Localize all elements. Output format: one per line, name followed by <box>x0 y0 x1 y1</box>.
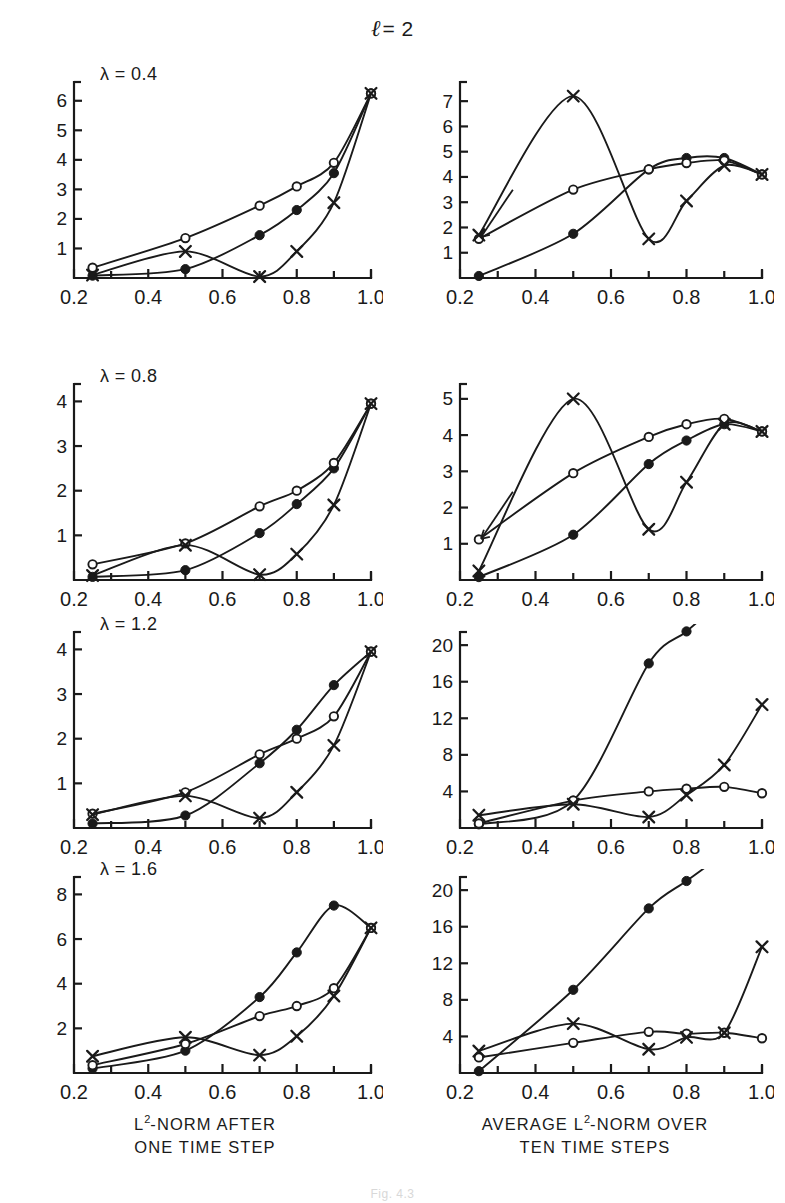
data-marker-filled-circle <box>682 627 691 636</box>
plot-area-panel-l16-one-step: 24680.20.40.60.81.0 <box>28 865 383 1115</box>
data-marker-cross <box>681 477 692 488</box>
series-line-open-circle <box>93 404 371 565</box>
data-marker-filled-circle <box>644 904 653 913</box>
data-marker-open-circle <box>255 750 263 758</box>
data-marker-open-circle <box>255 1012 263 1020</box>
series-line-filled-circle <box>479 865 762 1071</box>
data-marker-open-circle <box>330 712 338 720</box>
data-marker-filled-circle <box>292 205 301 214</box>
data-marker-filled-circle <box>181 265 190 274</box>
data-marker-open-circle <box>330 459 338 467</box>
data-marker-cross <box>291 787 302 798</box>
data-marker-filled-circle <box>181 566 190 575</box>
y-tick-label: 20 <box>432 880 453 901</box>
x-tick-label: 1.0 <box>357 1081 383 1103</box>
data-marker-cross <box>328 500 339 511</box>
figure-title-rest: = 2 <box>383 17 414 40</box>
x-tick-label: 0.6 <box>597 836 625 858</box>
data-marker-filled-circle <box>329 901 338 910</box>
series-line-open-circle <box>479 787 762 824</box>
data-marker-filled-circle <box>292 499 301 508</box>
x-tick-label: 0.6 <box>209 286 237 308</box>
data-marker-cross <box>328 197 339 208</box>
data-marker-open-circle <box>255 201 263 209</box>
data-marker-open-circle <box>682 420 690 428</box>
y-tick-label: 2 <box>56 208 67 229</box>
y-tick-label: 3 <box>442 192 453 213</box>
data-marker-cross <box>643 524 654 535</box>
data-marker-open-circle <box>682 159 690 167</box>
x-tick-label: 0.6 <box>597 286 625 308</box>
lambda-label: λ = 0.4 <box>100 64 157 85</box>
data-marker-cross <box>757 941 768 952</box>
right-caption-line2: TEN TIME STEPS <box>415 1136 775 1160</box>
axis-spines <box>460 82 762 278</box>
y-tick-label: 2 <box>442 497 453 518</box>
figure-root: ℓ= 2 1234560.20.40.60.81.0λ = 0.41234567… <box>0 0 785 1203</box>
data-marker-filled-circle <box>644 459 653 468</box>
data-marker-cross <box>328 740 339 751</box>
y-tick-label: 4 <box>56 391 67 412</box>
y-tick-label: 2 <box>56 480 67 501</box>
data-marker-open-circle <box>758 789 766 797</box>
x-tick-label: 0.8 <box>673 286 701 308</box>
series-line-filled-circle <box>93 93 371 275</box>
x-tick-label: 0.4 <box>522 286 550 308</box>
x-tick-label: 0.4 <box>522 1081 550 1103</box>
x-tick-label: 0.8 <box>283 588 311 610</box>
data-marker-filled-circle <box>255 992 264 1001</box>
x-tick-label: 1.0 <box>357 588 383 610</box>
lambda-label: λ = 1.6 <box>100 859 157 880</box>
y-tick-label: 1 <box>56 773 67 794</box>
data-marker-filled-circle <box>255 529 264 538</box>
left-column-axis-caption: L2-NORM AFTER ONE TIME STEP <box>30 1112 380 1160</box>
data-marker-filled-circle <box>474 271 483 280</box>
data-marker-filled-circle <box>569 985 578 994</box>
data-marker-cross <box>291 549 302 560</box>
data-marker-open-circle <box>330 159 338 167</box>
y-tick-label: 7 <box>442 91 453 112</box>
plot-area-panel-l08-ten-step: 123450.20.40.60.81.0 <box>414 372 774 622</box>
axis-spines <box>460 384 762 580</box>
data-marker-open-circle <box>645 1028 653 1036</box>
data-marker-filled-circle <box>292 948 301 957</box>
y-tick-label: 2 <box>56 1018 67 1039</box>
series-line-filled-circle <box>479 424 762 577</box>
data-marker-open-circle <box>720 783 728 791</box>
chart-panel-panel-l08-ten-step: 123450.20.40.60.81.0 <box>414 372 774 622</box>
plot-area-panel-l08-one-step: 12340.20.40.60.81.0 <box>28 372 383 622</box>
series-line-open-circle <box>93 928 371 1065</box>
x-tick-label: 0.2 <box>446 1081 474 1103</box>
plot-area-panel-l12-one-step: 12340.20.40.60.81.0 <box>28 620 383 870</box>
y-tick-label: 6 <box>56 929 67 950</box>
data-marker-cross <box>291 246 302 257</box>
axis-spines <box>460 877 762 1073</box>
y-tick-label: 3 <box>442 461 453 482</box>
plot-area-panel-l16-ten-step: 481216200.20.40.60.81.0 <box>414 865 774 1115</box>
data-marker-filled-circle <box>644 659 653 668</box>
y-tick-label: 4 <box>442 781 453 802</box>
data-marker-open-circle <box>475 819 483 827</box>
data-marker-open-circle <box>181 234 189 242</box>
y-tick-label: 3 <box>56 179 67 200</box>
axis-spines <box>74 632 371 828</box>
y-tick-label: 20 <box>432 635 453 656</box>
y-tick-label: 5 <box>442 388 453 409</box>
series-line-cross <box>93 652 371 819</box>
y-tick-label: 5 <box>442 141 453 162</box>
data-marker-cross <box>757 699 768 710</box>
right-caption-post: -NORM OVER <box>590 1115 708 1133</box>
data-marker-open-circle <box>293 1002 301 1010</box>
data-marker-filled-circle <box>329 681 338 690</box>
x-tick-label: 0.6 <box>209 1081 237 1103</box>
x-tick-label: 0.8 <box>673 1081 701 1103</box>
chart-panel-panel-l08-one-step: 12340.20.40.60.81.0λ = 0.8 <box>28 372 383 622</box>
right-caption-line1: AVERAGE L2-NORM OVER <box>415 1112 775 1136</box>
x-tick-label: 1.0 <box>748 1081 774 1103</box>
y-tick-label: 1 <box>442 242 453 263</box>
data-marker-open-circle <box>255 502 263 510</box>
y-tick-label: 6 <box>442 116 453 137</box>
series-line-filled-circle <box>93 652 371 824</box>
lambda-label: λ = 1.2 <box>100 614 157 635</box>
x-tick-label: 0.2 <box>60 286 88 308</box>
